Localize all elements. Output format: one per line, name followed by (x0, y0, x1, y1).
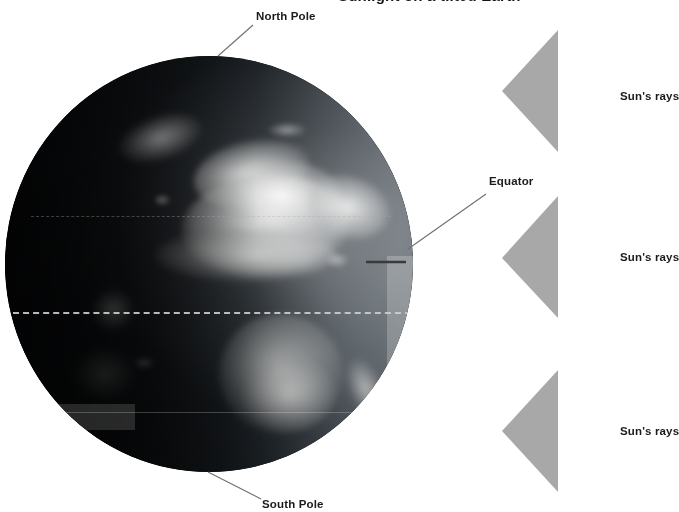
label-sun-rays-bottom: Sun's rays (620, 425, 679, 437)
landmass-south-america (73, 348, 135, 402)
leader-line-equator (408, 194, 486, 249)
landmass-madagascar (338, 352, 394, 426)
label-sun-rays-middle: Sun's rays (620, 251, 679, 263)
page-title-clipped: Sunlight on a tilted Earth (0, 0, 677, 7)
continents-layer (5, 56, 413, 472)
sun-ray-middle (502, 196, 558, 318)
label-south-pole: South Pole (262, 498, 324, 510)
label-sun-rays-top: Sun's rays (620, 90, 679, 102)
leader-line-north-pole (218, 25, 253, 56)
cloud-speck-3 (325, 252, 349, 268)
label-equator: Equator (489, 175, 534, 187)
sun-ray-bottom (502, 370, 558, 492)
earth-globe (5, 56, 413, 472)
globe-sphere (5, 56, 413, 472)
sun-ray-top (502, 30, 558, 152)
cloud-speck-1 (153, 194, 171, 206)
landmass-kalahari (243, 356, 335, 432)
landmass-brazil-coast (91, 288, 135, 332)
page-title-text: Sunlight on a tilted Earth (338, 0, 521, 4)
cloud-speck-4 (133, 356, 155, 370)
cloud-speck-2 (267, 122, 307, 138)
leader-line-south-pole (208, 472, 261, 499)
label-north-pole: North Pole (256, 10, 316, 22)
landmass-greenland (112, 104, 207, 172)
